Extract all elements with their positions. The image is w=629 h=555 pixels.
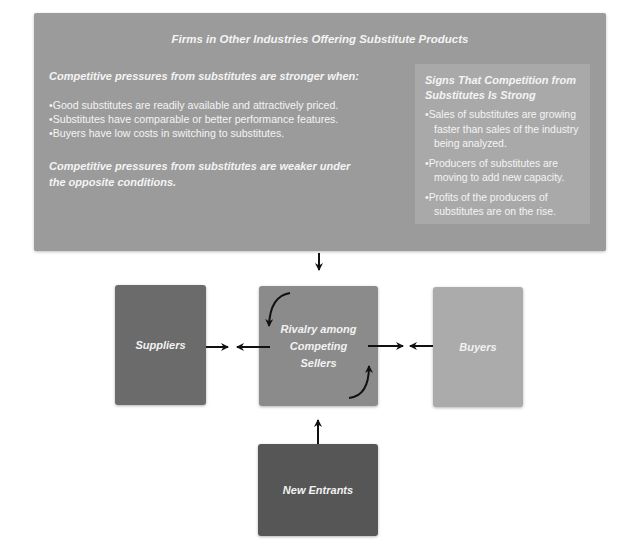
- stronger-heading: Competitive pressures from substitutes a…: [49, 70, 359, 82]
- weaker-note: Competitive pressures from substitutes a…: [49, 158, 369, 190]
- list-item: Sales of substitutes are growing faster …: [425, 108, 587, 152]
- new-entrants-label: New Entrants: [283, 482, 353, 499]
- substitutes-box: Firms in Other Industries Offering Subst…: [34, 13, 606, 251]
- list-item: Substitutes have comparable or better pe…: [49, 112, 338, 126]
- stronger-conditions-list: Good substitutes are readily available a…: [49, 98, 338, 140]
- suppliers-label: Suppliers: [135, 337, 185, 354]
- buyers-label: Buyers: [459, 339, 496, 356]
- suppliers-box: Suppliers: [115, 285, 206, 405]
- signs-box: Signs That Competition from Substitutes …: [415, 64, 590, 224]
- buyers-box: Buyers: [433, 287, 523, 407]
- list-item: Buyers have low costs in switching to su…: [49, 126, 338, 140]
- rivalry-label: Rivalry among Competing Sellers: [279, 321, 359, 372]
- rivalry-box: Rivalry among Competing Sellers: [259, 286, 378, 406]
- new-entrants-box: New Entrants: [258, 444, 378, 536]
- list-item: Producers of substitutes are moving to a…: [425, 157, 587, 186]
- signs-list: Sales of substitutes are growing faster …: [425, 108, 587, 225]
- list-item: Good substitutes are readily available a…: [49, 98, 338, 112]
- substitutes-title: Firms in Other Industries Offering Subst…: [34, 33, 606, 45]
- signs-heading: Signs That Competition from Substitutes …: [425, 73, 585, 103]
- list-item: Profits of the producers of substitutes …: [425, 191, 587, 220]
